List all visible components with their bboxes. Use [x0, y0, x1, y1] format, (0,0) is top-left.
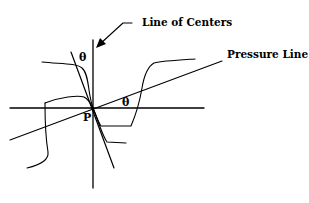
leader-line [100, 23, 132, 44]
gear-contact-diagram: Line of Centers Pressure Line θ θ P [0, 0, 309, 203]
right-tooth-profile [93, 59, 195, 126]
line-of-centers-label: Line of Centers [142, 16, 232, 28]
left-tooth-profile [45, 96, 93, 108]
theta-upper-label: θ [79, 51, 86, 64]
pressure-line-label: Pressure Line [227, 48, 308, 60]
theta-lower-label: θ [122, 96, 129, 109]
left-tooth-outer [27, 103, 48, 168]
pitch-point-label: P [83, 111, 91, 124]
pressure-line [10, 61, 222, 140]
